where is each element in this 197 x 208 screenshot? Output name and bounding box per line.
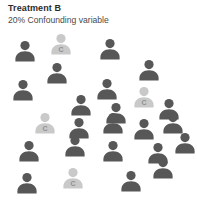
person-icon [10,77,36,103]
svg-text:C: C [141,99,146,106]
person-icon [100,138,126,164]
person-icon [118,168,144,194]
person-icon [100,110,126,136]
person-icon [44,60,70,86]
person-icon [97,36,123,62]
person-icon [131,116,157,142]
person-icon [16,138,42,164]
svg-text:C: C [42,125,47,132]
person-icon-confounded: C [48,31,74,57]
person-icon-confounded: C [131,84,157,110]
svg-text:C: C [70,180,75,187]
person-icon [172,130,197,156]
person-icon-confounded: C [32,110,58,136]
person-icon-confounded: C [60,165,86,191]
person-icon [14,170,40,196]
person-icon [12,38,38,64]
person-icon [150,155,176,181]
person-icon [62,133,88,159]
person-icon [94,76,120,102]
person-icon-field: CCCC [0,0,197,208]
person-icon [136,57,162,83]
pictogram-panel: Treatment B 20% Confounding variable CCC… [0,0,197,208]
svg-text:C: C [58,46,63,53]
